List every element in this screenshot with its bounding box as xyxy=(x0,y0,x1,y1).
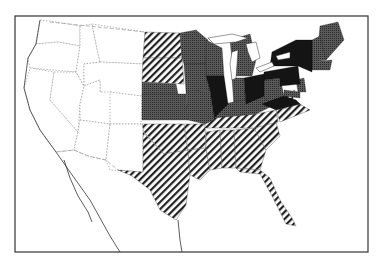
us-choropleth-map xyxy=(0,0,381,267)
